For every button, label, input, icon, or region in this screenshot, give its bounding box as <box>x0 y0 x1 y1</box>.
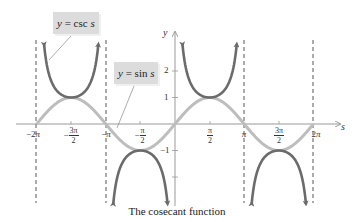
csc-leader-line <box>49 36 71 60</box>
csc-label-fn: csc <box>74 17 88 29</box>
x-tick-neg3pi2: −3π2 <box>56 126 86 145</box>
csc-label-var: s <box>88 17 95 29</box>
csc-label-eq: = <box>62 17 74 29</box>
csc-branch-4 <box>252 151 306 204</box>
csc-label: y = csc s <box>53 12 99 34</box>
csc-branch-1 <box>44 45 98 98</box>
y-tick-neg1: −1 <box>160 145 170 155</box>
csc-branch-3 <box>182 45 236 98</box>
y-tick-1: 1 <box>164 92 169 102</box>
x-axis-name: s <box>341 121 345 132</box>
x-tick-3pi2: 3π2 <box>264 126 294 145</box>
x-tick-negpi: −π <box>91 130 121 139</box>
x-tick-pi: π <box>229 130 259 139</box>
sin-label-eq: = <box>123 67 135 79</box>
x-tick-neg2pi: −2π <box>18 130 48 139</box>
y-axis-name: y <box>163 27 167 38</box>
x-tick-negpi2: −π2 <box>125 126 155 145</box>
y-tick-2: 2 <box>164 65 169 75</box>
csc-branch-2 <box>113 151 167 204</box>
x-tick-pi2: π2 <box>195 126 225 145</box>
sin-label-fn: sin <box>135 67 148 79</box>
sin-label: y = sin s <box>114 62 158 84</box>
sin-leader-line <box>117 86 134 128</box>
sin-label-var: s <box>147 67 154 79</box>
chart-caption: The cosecant function <box>0 205 354 217</box>
x-tick-2pi: 2π <box>301 130 331 139</box>
